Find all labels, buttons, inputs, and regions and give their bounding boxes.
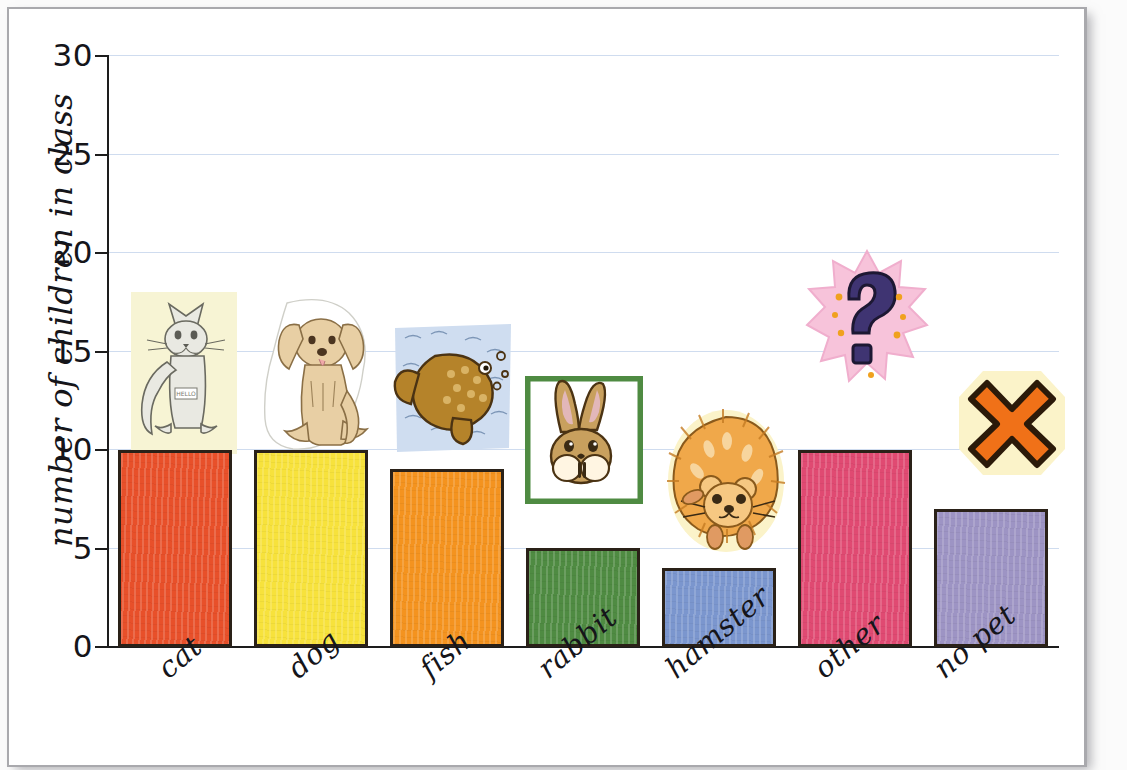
y-axis-title: number of children in class bbox=[42, 40, 80, 600]
chart-page: 30 25 20 15 10 5 0 number of children in… bbox=[0, 0, 1127, 770]
bar-fish[interactable] bbox=[390, 469, 504, 647]
plot-area: 30 25 20 15 10 5 0 number of children in… bbox=[9, 9, 1084, 765]
y-tick-label-0: 0 bbox=[19, 628, 93, 664]
bar-cat[interactable] bbox=[118, 450, 232, 647]
bar-dog[interactable] bbox=[254, 450, 368, 647]
chart-frame: 30 25 20 15 10 5 0 number of children in… bbox=[7, 7, 1087, 767]
bars-group bbox=[107, 55, 1059, 647]
x-tick-labels: cat dog fish rabbit hamster other no pet bbox=[107, 649, 1059, 767]
